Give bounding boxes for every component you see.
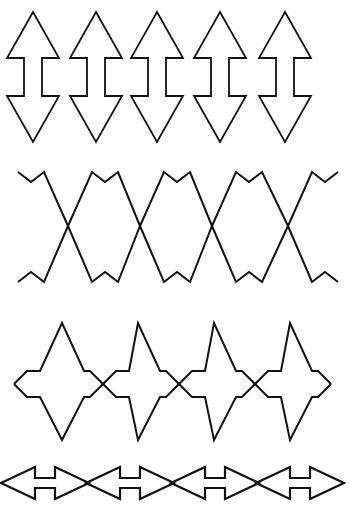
band-4-horizontal-double-arrows-2: [171, 467, 259, 499]
band-1-vertical-double-arrows-3: [194, 12, 246, 142]
band-3-spike-upper: [14, 323, 331, 384]
band-3-svg: [0, 315, 352, 445]
band-4-horizontal-double-arrows-0: [1, 467, 89, 499]
band-vertical-double-arrow-row: [0, 0, 352, 152]
band-1-vertical-double-arrows-4: [259, 12, 311, 142]
band-1-vertical-double-arrows-0: [7, 12, 59, 142]
band-1-vertical-double-arrows-1: [70, 12, 122, 142]
band-1-vertical-double-arrows-2: [131, 12, 183, 142]
band-crossing-zigzag-row: [0, 155, 352, 295]
band-2-zigzag-descending: [18, 172, 338, 282]
band-horizontal-double-arrow-row: [0, 452, 352, 507]
band-1-svg: [0, 0, 352, 152]
band-4-horizontal-double-arrows-1: [86, 467, 174, 499]
band-2-zigzag-ascending: [18, 172, 338, 282]
band-2-shapes: [18, 172, 338, 282]
band-3-shapes: [14, 323, 331, 440]
band-1-shapes: [7, 12, 311, 142]
pattern-sheet-canvas: Decorative line-art border pattern sheet: [0, 0, 352, 507]
band-spiked-zigzag-row: [0, 315, 352, 445]
band-3-spike-lower: [14, 384, 331, 440]
band-4-horizontal-double-arrows-3: [256, 467, 344, 499]
band-2-svg: [0, 155, 352, 295]
band-4-shapes: [1, 467, 344, 499]
band-4-svg: [0, 452, 352, 507]
